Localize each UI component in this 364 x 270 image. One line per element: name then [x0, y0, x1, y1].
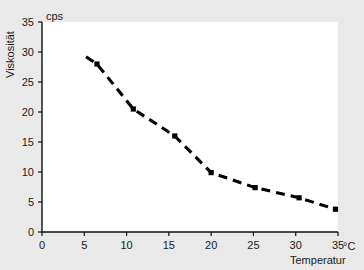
x-tick-label: 10: [120, 239, 132, 251]
x-axis-unit-label: °C: [343, 240, 355, 252]
x-tick-label: 20: [205, 239, 217, 251]
y-axis-ticks: 05101520253035: [22, 16, 42, 238]
x-tick-label: 30: [290, 239, 302, 251]
data-point-marker: [94, 61, 99, 66]
y-tick-label: 5: [28, 196, 34, 208]
x-tick-label: 25: [247, 239, 259, 251]
data-point-marker: [333, 207, 338, 212]
data-point-marker: [297, 195, 302, 200]
y-tick-label: 35: [22, 16, 34, 28]
y-tick-label: 20: [22, 106, 34, 118]
y-tick-label: 25: [22, 76, 34, 88]
x-axis-title: Temperatur: [290, 254, 346, 266]
y-tick-label: 0: [28, 226, 34, 238]
axis-lines: [42, 22, 338, 232]
data-point-marker: [131, 106, 136, 111]
chart-canvas: cps Viskosität Temperatur °C 05101520253…: [0, 0, 364, 270]
y-tick-label: 10: [22, 166, 34, 178]
data-trend-line: [86, 57, 335, 209]
y-axis-unit-label: cps: [46, 10, 64, 22]
x-tick-label: 5: [81, 239, 87, 251]
x-tick-label: 0: [39, 239, 45, 251]
y-tick-label: 15: [22, 136, 34, 148]
x-tick-label: 15: [163, 239, 175, 251]
data-point-marker: [253, 185, 258, 190]
y-tick-label: 30: [22, 46, 34, 58]
x-tick-label: 35: [332, 239, 344, 251]
data-point-marker: [209, 170, 214, 175]
y-axis-title: Viskosität: [4, 31, 16, 78]
viscosity-temperature-chart: cps Viskosität Temperatur °C 05101520253…: [0, 0, 364, 270]
x-axis-ticks: 05101520253035: [39, 232, 344, 251]
data-point-marker: [172, 133, 177, 138]
data-series-layer: [86, 57, 338, 212]
